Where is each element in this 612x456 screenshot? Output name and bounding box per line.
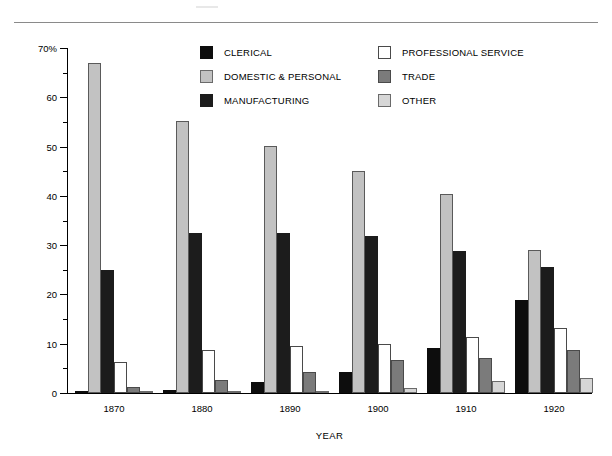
legend-swatch-icon — [200, 46, 213, 59]
bar-trade-1910 — [479, 358, 492, 393]
y-tick-label: 50 — [46, 141, 57, 152]
y-axis-line — [67, 48, 68, 393]
x-tick-label-1910: 1910 — [455, 403, 476, 414]
bar-domestic-1890 — [264, 146, 277, 393]
bar-other-1900 — [404, 388, 417, 393]
bar-trade-1900 — [391, 360, 404, 393]
legend-label: TRADE — [402, 71, 435, 82]
y-tick-major — [60, 344, 67, 345]
y-tick-label: 40 — [46, 190, 57, 201]
y-tick-major — [60, 245, 67, 246]
bar-domestic-1920 — [528, 250, 541, 393]
x-tick-label-1900: 1900 — [367, 403, 388, 414]
page-artifact — [196, 6, 218, 8]
legend-swatch-icon — [378, 46, 391, 59]
y-tick-label: 0 — [52, 388, 57, 399]
x-tick-label-1920: 1920 — [543, 403, 564, 414]
y-tick-minor — [63, 122, 67, 123]
y-tick-major — [60, 393, 67, 394]
y-tick-minor — [63, 221, 67, 222]
bar-professional-1900 — [378, 344, 391, 393]
legend-item-other: OTHER — [378, 88, 524, 112]
chart-legend: CLERICALDOMESTIC & PERSONALMANUFACTURING… — [200, 40, 530, 112]
bar-clerical-1880 — [163, 390, 176, 393]
bar-trade-1880 — [215, 380, 228, 393]
y-tick-label: 30 — [46, 240, 57, 251]
legend-item-clerical: CLERICAL — [200, 40, 341, 64]
bar-professional-1880 — [202, 350, 215, 393]
y-tick-major — [60, 48, 67, 49]
bar-other-1880 — [228, 391, 241, 393]
y-tick-label: 60 — [46, 92, 57, 103]
legend-item-trade: TRADE — [378, 64, 524, 88]
bar-domestic-1880 — [176, 121, 189, 393]
legend-item-manufacturing: MANUFACTURING — [200, 88, 341, 112]
bar-domestic-1900 — [352, 171, 365, 393]
bar-trade-1890 — [303, 372, 316, 393]
legend-label: OTHER — [402, 95, 436, 106]
y-tick-major — [60, 294, 67, 295]
y-tick-minor — [63, 319, 67, 320]
top-divider — [14, 22, 598, 23]
bar-professional-1890 — [290, 346, 303, 393]
bar-manufacturing-1910 — [453, 251, 466, 393]
bar-trade-1870 — [127, 387, 140, 393]
legend-label: CLERICAL — [224, 47, 272, 58]
x-axis-title: YEAR — [67, 430, 592, 441]
y-tick-minor — [63, 73, 67, 74]
bar-domestic-1870 — [88, 63, 101, 393]
bar-professional-1870 — [114, 362, 127, 393]
chart-page: OCCUPATIONAL DISTRIBUTION (percentage) 0… — [0, 0, 612, 456]
y-tick-major — [60, 147, 67, 148]
bar-manufacturing-1870 — [101, 270, 114, 393]
bar-other-1920 — [580, 378, 593, 393]
legend-item-domestic-personal: DOMESTIC & PERSONAL — [200, 64, 341, 88]
legend-swatch-icon — [200, 70, 213, 83]
y-tick-minor — [63, 171, 67, 172]
bar-manufacturing-1920 — [541, 267, 554, 393]
y-tick-major — [60, 196, 67, 197]
legend-column-2: PROFESSIONAL SERVICETRADEOTHER — [378, 40, 524, 112]
bar-group-1870 — [75, 48, 153, 393]
y-tick-major — [60, 97, 67, 98]
y-tick-minor — [63, 368, 67, 369]
x-tick-label-1870: 1870 — [103, 403, 124, 414]
bar-manufacturing-1900 — [365, 236, 378, 393]
bar-other-1890 — [316, 391, 329, 393]
legend-swatch-icon — [200, 94, 213, 107]
legend-label: MANUFACTURING — [224, 95, 309, 106]
bar-other-1910 — [492, 381, 505, 393]
bar-professional-1920 — [554, 328, 567, 393]
x-tick-label-1880: 1880 — [191, 403, 212, 414]
legend-swatch-icon — [378, 70, 391, 83]
y-tick-minor — [63, 270, 67, 271]
legend-label: DOMESTIC & PERSONAL — [224, 71, 341, 82]
bar-clerical-1890 — [251, 382, 264, 393]
bar-manufacturing-1890 — [277, 233, 290, 393]
bar-professional-1910 — [466, 337, 479, 393]
bar-clerical-1910 — [427, 348, 440, 393]
y-tick-label: 70% — [38, 43, 57, 54]
bar-trade-1920 — [567, 350, 580, 393]
bar-clerical-1900 — [339, 372, 352, 393]
x-tick-label-1890: 1890 — [279, 403, 300, 414]
bar-domestic-1910 — [440, 194, 453, 393]
legend-item-professional-service: PROFESSIONAL SERVICE — [378, 40, 524, 64]
y-tick-label: 10 — [46, 338, 57, 349]
bar-clerical-1920 — [515, 300, 528, 393]
x-axis-line — [67, 393, 592, 394]
bar-other-1870 — [140, 391, 153, 393]
legend-swatch-icon — [378, 94, 391, 107]
legend-column-1: CLERICALDOMESTIC & PERSONALMANUFACTURING — [200, 40, 341, 112]
bar-manufacturing-1880 — [189, 233, 202, 393]
bar-clerical-1870 — [75, 391, 88, 393]
legend-label: PROFESSIONAL SERVICE — [402, 47, 524, 58]
y-tick-label: 20 — [46, 289, 57, 300]
